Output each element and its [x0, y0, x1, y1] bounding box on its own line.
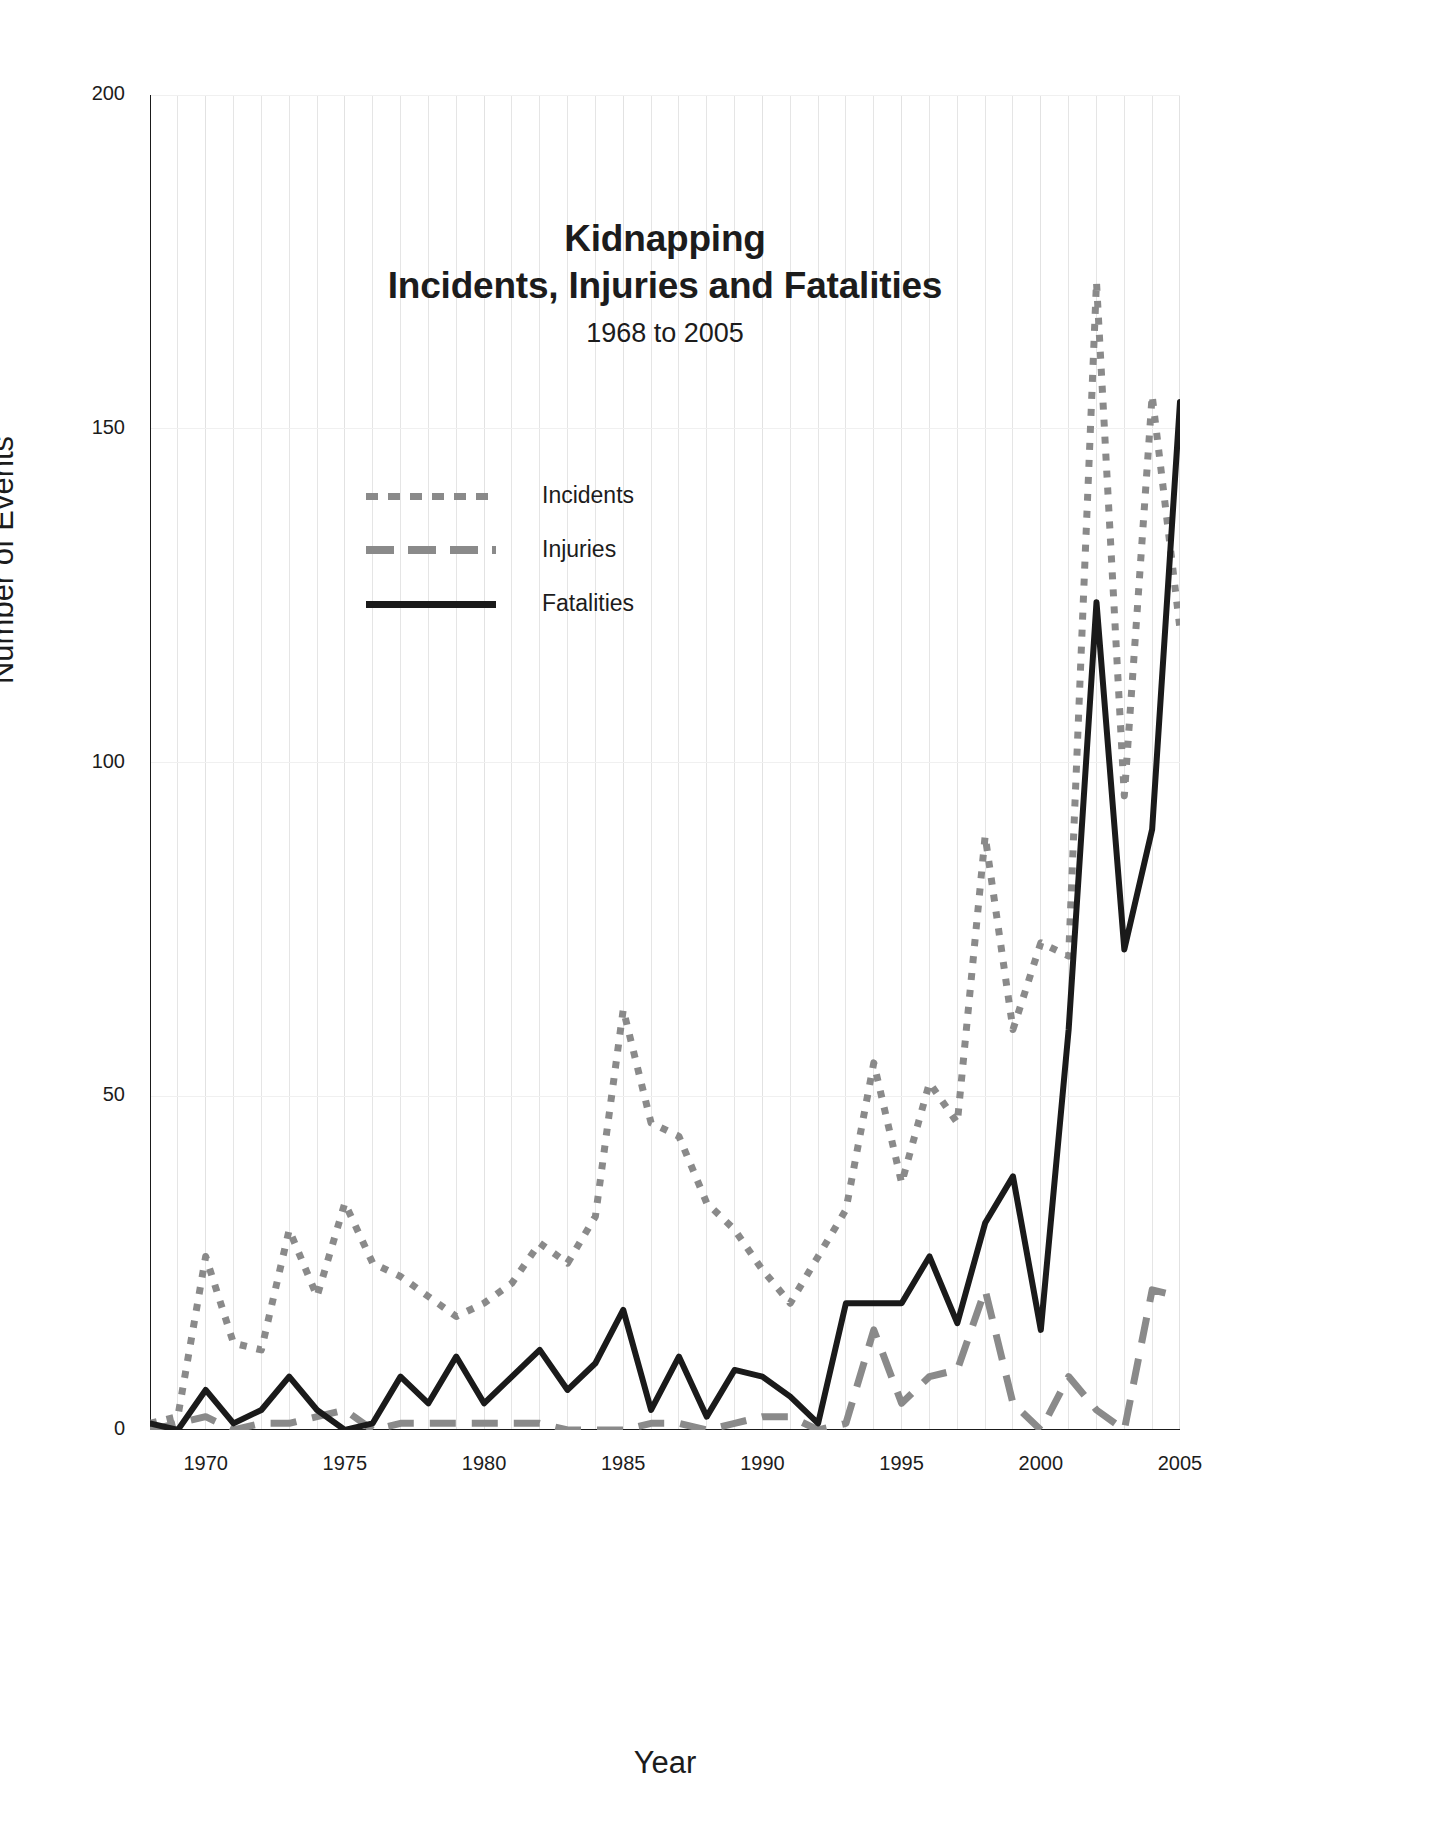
- x-tick-label: 1995: [857, 1452, 947, 1475]
- y-axis-title: Number of Events: [0, 350, 21, 770]
- x-tick-label: 1980: [439, 1452, 529, 1475]
- legend-key-fatalities-icon: [366, 601, 496, 608]
- chart-canvas: [150, 95, 1180, 1430]
- x-tick-label: 1985: [578, 1452, 668, 1475]
- y-tick-label: 150: [45, 416, 125, 439]
- legend-key-incidents-icon: [366, 493, 496, 500]
- legend-key-injuries-icon: [366, 546, 496, 554]
- x-tick-label: 1975: [300, 1452, 390, 1475]
- x-tick-label: 1990: [717, 1452, 807, 1475]
- x-axis-title: Year: [150, 1745, 1180, 1781]
- legend-label-fatalities: Fatalities: [542, 590, 634, 617]
- y-tick-label: 0: [45, 1417, 125, 1440]
- y-tick-label: 50: [45, 1083, 125, 1106]
- legend-label-incidents: Incidents: [542, 482, 634, 509]
- series-fatalities: [150, 402, 1180, 1430]
- x-tick-label: 2005: [1135, 1452, 1225, 1475]
- y-tick-label: 100: [45, 750, 125, 773]
- chart-page: 050100150200 197019751980198519901995200…: [0, 0, 1445, 1840]
- x-tick-label: 1970: [161, 1452, 251, 1475]
- x-tick-label: 2000: [996, 1452, 1086, 1475]
- legend-label-injuries: Injuries: [542, 536, 616, 563]
- series-injuries: [150, 1290, 1180, 1430]
- plot-area: [150, 95, 1180, 1430]
- y-tick-label: 200: [45, 82, 125, 105]
